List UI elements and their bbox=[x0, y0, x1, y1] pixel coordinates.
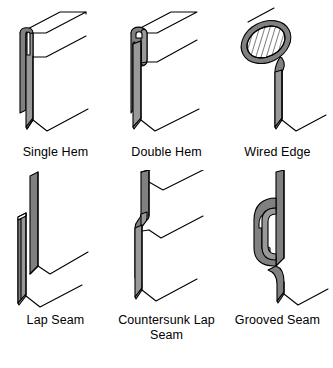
double-hem-drawing bbox=[111, 0, 222, 143]
figure-item-wired-edge: Wired Edge bbox=[222, 0, 333, 170]
countersunk-lap-seam-drawing bbox=[111, 170, 222, 310]
figure-item-single-hem: Single Hem bbox=[0, 0, 111, 170]
figure-caption: Lap Seam bbox=[3, 313, 108, 328]
sheet-metal-seams-figure: Single Hem bbox=[0, 0, 333, 368]
figure-item-grooved-seam: Grooved Seam bbox=[222, 170, 333, 368]
figure-item-double-hem: Double Hem bbox=[111, 0, 222, 170]
figure-item-countersunk-lap-seam: Countersunk Lap Seam bbox=[111, 170, 222, 368]
figure-grid: Single Hem bbox=[0, 0, 333, 368]
figure-caption: Double Hem bbox=[114, 145, 219, 160]
lap-seam-drawing bbox=[0, 170, 111, 310]
figure-item-lap-seam: Lap Seam bbox=[0, 170, 111, 368]
figure-caption: Wired Edge bbox=[225, 145, 330, 160]
single-hem-drawing bbox=[0, 0, 111, 143]
figure-caption: Countersunk Lap Seam bbox=[114, 313, 219, 343]
grooved-seam-drawing bbox=[222, 170, 333, 310]
figure-caption: Grooved Seam bbox=[225, 313, 330, 328]
figure-caption: Single Hem bbox=[3, 145, 108, 160]
wired-edge-drawing bbox=[222, 0, 333, 143]
